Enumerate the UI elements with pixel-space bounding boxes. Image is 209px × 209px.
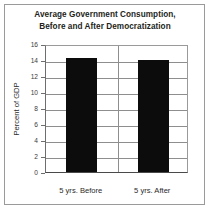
chart-title: Average Government Consumption, Before a…	[14, 9, 196, 32]
plot-area	[45, 45, 188, 173]
chart-title-line-1: Average Government Consumption,	[34, 10, 175, 19]
y-axis-label-wrap: Percent of GDP	[9, 45, 22, 173]
bar	[66, 58, 97, 172]
y-axis-label: Percent of GDP	[11, 82, 20, 135]
chart-title-line-2: Before and After Democratization	[14, 21, 196, 33]
category-divider	[118, 46, 119, 172]
bar	[138, 60, 169, 172]
chart-figure: Average Government Consumption, Before a…	[0, 0, 209, 209]
x-tick-label: 5 yrs. Before	[45, 186, 117, 195]
x-tick-label: 5 yrs. After	[117, 186, 189, 195]
